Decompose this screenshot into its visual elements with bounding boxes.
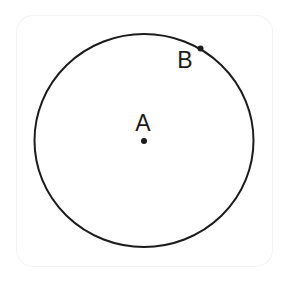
point-b-label: B bbox=[177, 47, 192, 73]
circle-diagram: A B bbox=[0, 0, 285, 284]
point-a-dot bbox=[141, 138, 147, 144]
point-a-label: A bbox=[135, 110, 151, 136]
point-b-dot bbox=[198, 46, 204, 52]
